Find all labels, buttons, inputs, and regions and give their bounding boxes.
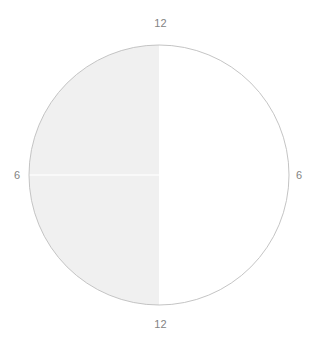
pie-chart: 12 12 6 6 [0,0,321,352]
tick-label-left: 6 [14,170,20,181]
tick-label-right: 6 [296,170,302,181]
tick-label-top: 12 [0,18,321,29]
tick-label-bottom: 12 [0,319,321,330]
pie-chart-canvas [0,0,321,352]
pie-slice-right-half[interactable] [159,45,289,305]
